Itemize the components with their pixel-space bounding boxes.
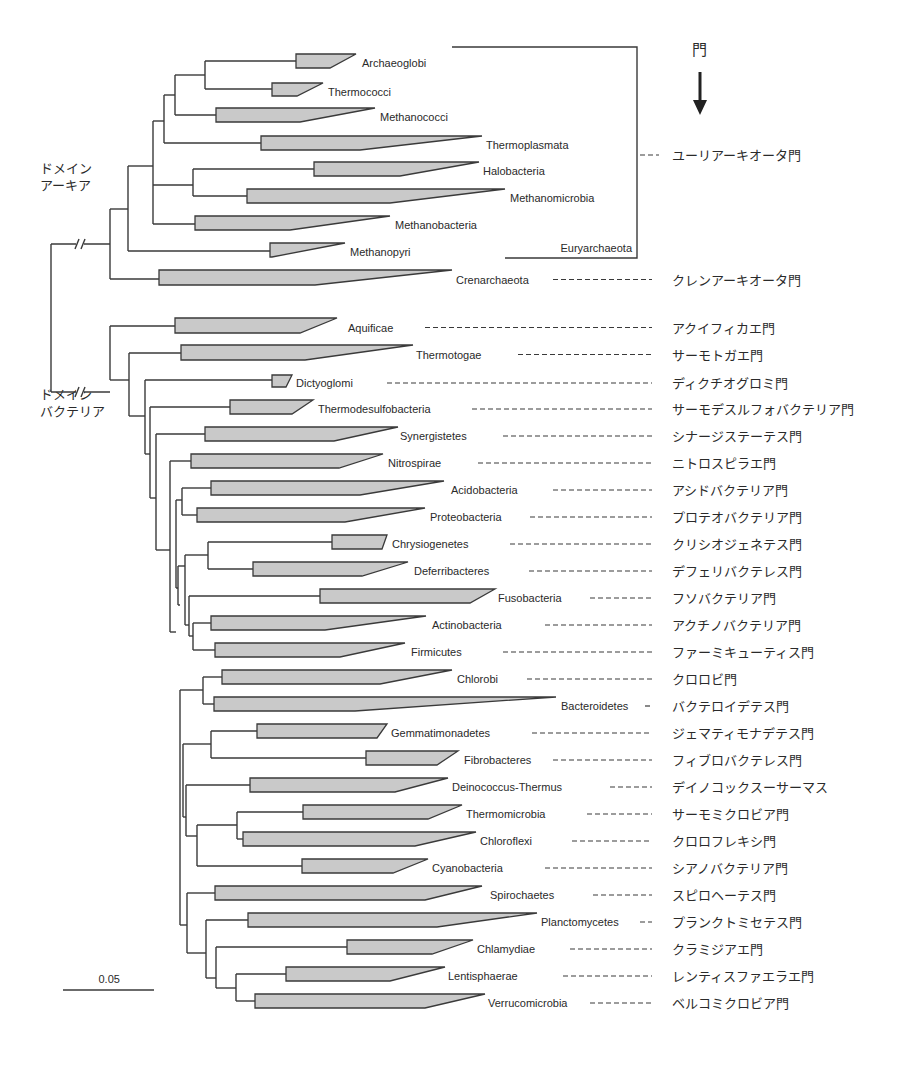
clade-wedge [191, 454, 383, 468]
clade-chlorobi: Chlorobiクロロビ門 [222, 670, 737, 687]
clade-wedge [286, 967, 445, 981]
clade-acidobacteria: Acidobacteriaアシドバクテリア門 [211, 481, 788, 498]
clade-label: Nitrospirae [388, 457, 441, 469]
clade-label: Actinobacteria [432, 619, 503, 631]
clade-label: Chlamydiae [477, 943, 535, 955]
clade-label: Dictyoglomi [296, 377, 353, 389]
clade-wedge [230, 400, 313, 414]
clade-label: Deinococcus-Thermus [452, 781, 563, 793]
clade-label: Chrysiogenetes [392, 538, 469, 550]
branch-breaks [75, 239, 85, 397]
clade-cyanobacteria: Cyanobacteriaシアノバクテリア門 [302, 859, 788, 876]
clade-wedge [302, 859, 428, 873]
clade-wedge [159, 270, 452, 285]
clade-synergistetes: Synergistetesシナージステーテス門 [205, 427, 802, 444]
clade-wedge [247, 189, 505, 203]
clade-wedge [222, 670, 452, 684]
clade-wedge [303, 805, 462, 819]
phylum-jp-label: レンティスファエラエ門 [672, 969, 814, 984]
scale-bar: 0.05 [63, 973, 154, 990]
phylum-jp-label: クラミジアエ門 [672, 942, 763, 957]
phylogenetic-tree: ArchaeoglobiThermococciMethanococciTherm… [0, 0, 906, 1066]
clade-label: Lentisphaerae [448, 970, 518, 982]
clade-label: Methanococci [380, 111, 448, 123]
clade-dictyoglomi: Dictyoglomiディクチオグロミ門 [272, 375, 788, 391]
clade-wedge [211, 616, 426, 630]
clade-label: Thermomicrobia [466, 808, 546, 820]
clade-wedge [195, 216, 390, 230]
clade-wedge [214, 697, 556, 711]
clade-crenarchaeota: Crenarchaeotaクレンアーキオータ門 [159, 270, 801, 288]
phylum-jp-label: クリシオジェネテス門 [672, 537, 802, 552]
clade-label: Crenarchaeota [456, 274, 530, 286]
clade-deinococcus-thermus: Deinococcus-Thermusデイノコックスーサーマス [250, 778, 828, 795]
clade-wedge [332, 535, 387, 549]
clade-wedge [197, 508, 425, 522]
phylum-jp-label: プランクトミセテス門 [672, 915, 802, 930]
clade-actinobacteria: Actinobacteriaアクチノバクテリア門 [211, 616, 801, 633]
clade-label: Verrucomicrobia [488, 997, 568, 1009]
phylum-jp-label: アクチノバクテリア門 [672, 618, 801, 633]
clade-label: Aquificae [348, 322, 393, 334]
clade-wedge [270, 243, 345, 257]
phylum-jp-label: シアノバクテリア門 [672, 861, 788, 876]
clade-spirochaetes: Spirochaetesスピロヘーテス門 [215, 886, 776, 903]
phylum-jp-label: サーモデスルフォバクテリア門 [672, 402, 854, 417]
clade-wedge [250, 778, 448, 792]
clade-label: Spirochaetes [490, 889, 555, 901]
clade-wedge [211, 481, 444, 495]
clade-chloroflexi: Chloroflexiクロロフレキシ門 [243, 832, 776, 849]
clade-thermoplasmata: Thermoplasmata [261, 136, 569, 151]
down-arrow-icon [693, 72, 707, 115]
clade-label: Archaeoglobi [362, 57, 426, 69]
phylum-jp-label: フィブロバクテレス門 [672, 753, 802, 768]
clade-fusobacteria: Fusobacteriaフソバクテリア門 [320, 589, 776, 606]
clade-wedge [205, 427, 398, 441]
clade-deferribacteres: Deferribacteresデフェリバクテレス門 [253, 562, 802, 579]
clade-label: Thermoplasmata [486, 139, 569, 151]
clade-wedge [181, 345, 413, 360]
clade-thermodesulfobacteria: Thermodesulfobacteriaサーモデスルフォバクテリア門 [230, 400, 854, 417]
phylum-jp-label: アシドバクテリア門 [672, 483, 788, 498]
clade-wedges: ArchaeoglobiThermococciMethanococciTherm… [159, 54, 854, 1011]
clade-lentisphaerae: Lentisphaeraeレンティスファエラエ門 [286, 967, 814, 984]
phylum-jp-label: バクテロイデテス門 [672, 699, 789, 714]
clade-methanopyri: Methanopyri [270, 243, 411, 258]
phylum-jp-label: クロロビ門 [672, 672, 737, 687]
phylum-jp-label: クロロフレキシ門 [672, 834, 776, 849]
clade-wedge [243, 832, 476, 846]
clade-wedge [215, 643, 405, 657]
clade-wedge [175, 318, 337, 333]
clade-wedge [272, 375, 292, 387]
phylum-jp-label: ジェマティモナデテス門 [672, 726, 814, 741]
clade-label: Cyanobacteria [432, 862, 504, 874]
clade-wedge [314, 162, 479, 176]
clade-methanomicrobia: Methanomicrobia [247, 189, 595, 204]
phylum-jp-label: クレンアーキオータ門 [672, 273, 801, 288]
clade-label: Deferribacteres [414, 565, 490, 577]
clade-nitrospirae: Nitrospiraeニトロスピラエ門 [191, 454, 776, 471]
phylum-jp-label: サーモミクロビア門 [672, 807, 789, 822]
clade-wedge [216, 108, 375, 122]
clade-fibrobacteres: Fibrobacteresフィブロバクテレス門 [366, 751, 802, 768]
clade-wedge [253, 562, 408, 576]
phylum-jp-label: プロテオバクテリア門 [672, 510, 802, 525]
clade-label: Synergistetes [400, 430, 467, 442]
clade-label: Fusobacteria [498, 592, 562, 604]
clade-label: Thermodesulfobacteria [318, 403, 431, 415]
clade-proteobacteria: Proteobacteriaプロテオバクテリア門 [197, 508, 802, 525]
clade-thermococci: Thermococci [272, 83, 391, 98]
clade-label: Planctomycetes [541, 916, 619, 928]
phylum-jp-label: ディクチオグロミ門 [672, 376, 788, 391]
clade-wedge [366, 751, 458, 765]
clade-firmicutes: Firmicutesファーミキューティス門 [215, 643, 814, 660]
clade-methanobacteria: Methanobacteria [195, 216, 478, 231]
phylum-jp-label: スピロヘーテス門 [672, 888, 776, 903]
phylum-jp-label: デイノコックスーサーマス [672, 780, 828, 795]
phylum-jp-label: シナージステーテス門 [672, 429, 802, 444]
euryarchaeota-label: Euryarchaeota [560, 242, 632, 254]
clade-label: Methanomicrobia [510, 192, 595, 204]
clade-wedge [320, 589, 495, 603]
phylum-jp-label: ニトロスピラエ門 [672, 456, 776, 471]
phylum-jp-label: ベルコミクロビア門 [672, 996, 789, 1011]
